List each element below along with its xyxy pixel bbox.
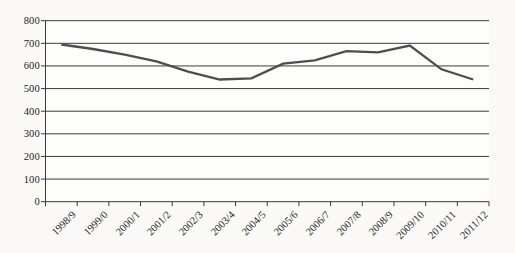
y-tick-label-300: 300 — [24, 128, 40, 139]
y-tick-label-400: 400 — [24, 106, 40, 117]
line-chart: 0100200300400500600700800 1998/91999/020… — [0, 0, 515, 253]
y-tick-label-500: 500 — [24, 83, 40, 94]
y-tick-label-200: 200 — [24, 151, 40, 162]
y-tick-label-700: 700 — [24, 38, 40, 49]
y-tick-label-800: 800 — [24, 15, 40, 26]
y-tick-label-600: 600 — [24, 60, 40, 71]
y-tick-label-100: 100 — [24, 174, 40, 185]
y-tick-label-0: 0 — [35, 196, 40, 207]
